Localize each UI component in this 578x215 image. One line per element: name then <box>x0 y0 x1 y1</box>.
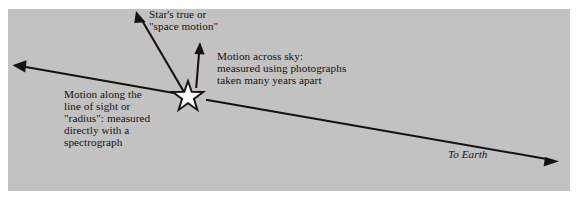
arrowhead <box>544 157 559 166</box>
label-space-motion: Star's true or "space motion" <box>149 9 218 33</box>
stellar-motion-figure: Star's true or "space motion" Motion acr… <box>0 0 578 215</box>
label-to-earth: To Earth <box>448 149 487 161</box>
label-motion-line-of-sight: Motion along the line of sight or "radiu… <box>64 89 150 149</box>
star-icon <box>173 81 204 110</box>
arrowhead <box>194 42 204 55</box>
across-sky-arrow <box>194 42 204 88</box>
to-earth-arrow <box>206 100 559 167</box>
label-motion-across-sky: Motion across sky: measured using photog… <box>217 51 346 87</box>
arrowhead <box>134 11 146 23</box>
arrowhead <box>13 60 27 72</box>
